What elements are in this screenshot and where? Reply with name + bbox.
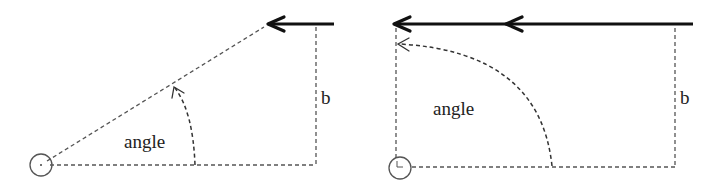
pivot-icon	[389, 157, 411, 179]
pivot-center-dot	[40, 164, 42, 166]
angle-label: angle	[433, 98, 474, 119]
angle-arc	[175, 88, 195, 165]
lever-label-b: b	[321, 87, 331, 108]
left-diagram: angle b	[30, 17, 334, 176]
torque-angle-diagram: angle b angle b	[0, 0, 720, 189]
lever-label-b: b	[680, 87, 690, 108]
angle-arc	[400, 44, 552, 166]
right-diagram: angle b	[389, 17, 693, 179]
pivot-center-mark	[397, 161, 403, 167]
angle-label: angle	[124, 131, 165, 152]
arc-arrowhead-icon	[172, 87, 184, 98]
